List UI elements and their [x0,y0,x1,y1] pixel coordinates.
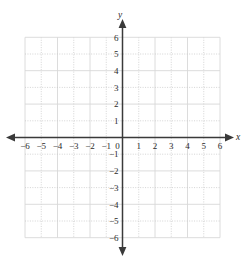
x-axis-left-arrowhead [6,134,15,142]
y-tick-label: 2 [114,99,119,109]
x-tick-label: −3 [69,141,79,151]
x-axis-right-arrowhead [225,134,234,142]
y-tick-label: 6 [114,33,119,43]
x-tick-label: −4 [53,141,63,151]
y-tick-label: 5 [114,49,119,59]
y-tick-label: −3 [109,183,119,193]
coordinate-plane-figure: −6−5−4−3−2−10123456 −6−5−4−3−2−1123456 x… [0,0,250,262]
x-tick-label: 4 [185,141,190,151]
x-tick-label: 3 [169,141,174,151]
y-tick-label: −4 [109,200,119,210]
coordinate-plane-svg: −6−5−4−3−2−10123456 −6−5−4−3−2−1123456 x… [0,0,250,262]
y-tick-label: 3 [114,83,119,93]
x-tick-label: −2 [85,141,95,151]
y-tick-label: −5 [109,216,119,226]
x-tick-label: 5 [202,141,207,151]
x-tick-label: 6 [218,141,223,151]
x-tick-label: 1 [137,141,142,151]
y-axis-bottom-arrowhead [119,247,127,256]
y-tick-label: 1 [114,116,119,126]
y-axis-top-arrowhead [119,19,127,28]
x-axis-label: x [235,132,241,142]
x-tick-label: 2 [153,141,158,151]
x-axis-tick-labels: −6−5−4−3−2−10123456 [20,141,223,151]
x-tick-label: −5 [36,141,46,151]
y-tick-label: −1 [109,149,119,159]
y-tick-label: 4 [114,66,119,76]
y-axis-label: y [117,10,123,20]
y-tick-label: −6 [109,233,119,243]
y-tick-label: −2 [109,166,119,176]
x-tick-label: −6 [20,141,30,151]
